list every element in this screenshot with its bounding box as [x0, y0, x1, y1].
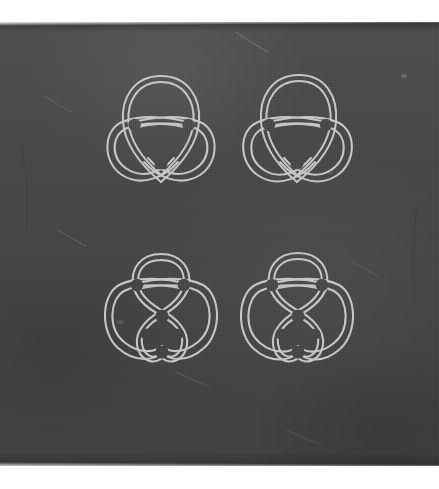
knot-bottom-right-drawing [236, 246, 358, 374]
knot-top-right-drawing [236, 70, 358, 198]
knot-top-right [236, 70, 358, 198]
knot-top-left [100, 70, 222, 198]
bottom-white-margin [0, 462, 439, 474]
knot-bottom-right [236, 246, 358, 374]
knot-bottom-left-drawing [100, 246, 222, 374]
knot-bottom-left [100, 246, 222, 374]
image-canvas [0, 0, 439, 489]
knot-top-left-drawing [100, 70, 222, 198]
